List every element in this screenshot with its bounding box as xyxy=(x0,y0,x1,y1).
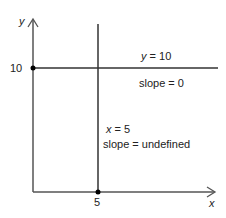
x-axis-label: x xyxy=(208,197,215,209)
point-x-intercept xyxy=(96,190,101,195)
horizontal-line-slope: slope = 0 xyxy=(139,77,184,89)
vertical-line-equation: x = 5 xyxy=(105,123,130,135)
coordinate-diagram: y x 10 5 y = 10 slope = 0 x = 5 slope = … xyxy=(0,0,226,218)
horizontal-line-equation: y = 10 xyxy=(140,50,171,62)
y-tick-10: 10 xyxy=(10,62,22,74)
x-tick-5: 5 xyxy=(94,196,100,208)
y-axis-label: y xyxy=(18,15,26,27)
point-y-intercept xyxy=(31,66,36,71)
vertical-line-slope: slope = undefined xyxy=(103,138,190,150)
